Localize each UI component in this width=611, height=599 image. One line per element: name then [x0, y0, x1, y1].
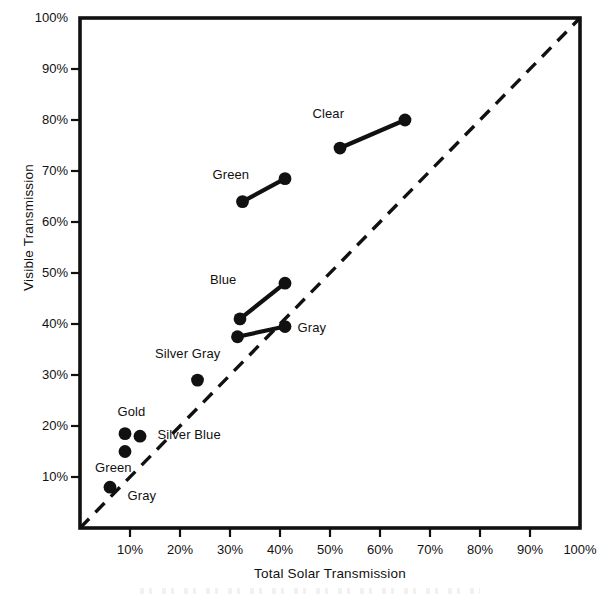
series-clear [334, 114, 412, 155]
data-point-marker [119, 445, 132, 458]
series-label-blue: Blue [210, 272, 236, 287]
data-point-marker [279, 172, 292, 185]
data-point-marker [119, 427, 132, 440]
y-tick-label: 10% [8, 469, 68, 484]
data-point-marker [104, 481, 117, 494]
series-label-green: Green [213, 167, 250, 182]
series-connector [240, 283, 285, 319]
y-tick-label: 60% [8, 214, 68, 229]
diagonal-parity-line [80, 18, 580, 528]
y-tick-label: 100% [8, 10, 68, 25]
x-tick-label: 100% [550, 542, 610, 557]
data-point-marker [399, 114, 412, 127]
data-point-marker [234, 313, 247, 326]
scan-artifact [140, 588, 480, 594]
y-tick-label: 20% [8, 418, 68, 433]
series-gray-low- [104, 481, 117, 494]
series-blue [234, 277, 292, 325]
series-label-green-low-: Green [95, 460, 132, 475]
data-point-marker [231, 330, 244, 343]
y-tick-label: 40% [8, 316, 68, 331]
series-connector [340, 120, 405, 148]
series-connector [238, 327, 286, 337]
data-point-marker [279, 320, 292, 333]
series-label-silver-blue: Silver Blue [158, 427, 221, 442]
series-gold [119, 427, 132, 440]
series-silver-gray [191, 374, 204, 387]
y-tick-label: 80% [8, 112, 68, 127]
data-point-marker [191, 374, 204, 387]
data-point-marker [236, 195, 249, 208]
y-tick-label: 30% [8, 367, 68, 382]
series-green-low- [119, 445, 132, 458]
y-tick-label: 90% [8, 61, 68, 76]
series-silver-blue [134, 430, 147, 443]
data-point-marker [334, 142, 347, 155]
data-point-marker [134, 430, 147, 443]
solar-transmission-scatter-chart: Visible Transmission Total Solar Transmi… [0, 0, 611, 599]
series-label-gray-low-: Gray [128, 488, 157, 503]
data-series-group [104, 114, 412, 494]
series-label-clear: Clear [313, 106, 345, 121]
parity-reference-line [80, 18, 580, 528]
series-label-gray: Gray [298, 320, 327, 335]
data-point-marker [279, 277, 292, 290]
series-label-silver-gray: Silver Gray [155, 346, 220, 361]
series-label-gold: Gold [118, 404, 146, 419]
plot-area [0, 0, 611, 599]
y-tick-label: 70% [8, 163, 68, 178]
y-tick-label: 50% [8, 265, 68, 280]
